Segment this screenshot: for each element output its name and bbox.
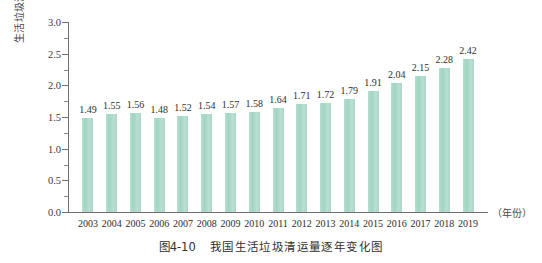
bar-value-label-2016: 2.04 (388, 69, 406, 80)
x-tick-label-2014: 2014 (339, 218, 359, 229)
y-tick-mark (64, 38, 68, 39)
bar-2019 (463, 59, 474, 212)
y-tick-label: 0.5 (48, 175, 61, 186)
y-tick-mark (64, 165, 68, 166)
bar-value-label-2014: 1.79 (341, 85, 359, 96)
x-tick-label-2019: 2019 (458, 218, 478, 229)
x-axis-unit-label: （年份） (492, 205, 532, 220)
x-tick-label-2016: 2016 (387, 218, 407, 229)
bar-value-label-2013: 1.72 (317, 89, 335, 100)
bar-2017 (415, 76, 426, 212)
bar-2003 (82, 118, 93, 212)
bar-2015 (368, 91, 379, 212)
bar-2016 (391, 83, 402, 212)
bar-value-label-2006: 1.48 (150, 104, 168, 115)
x-tick-label-2010: 2010 (244, 218, 264, 229)
x-tick-label-2013: 2013 (316, 218, 336, 229)
y-tick-mark (64, 70, 68, 71)
bar-2009 (225, 113, 236, 212)
x-tick-label-2005: 2005 (125, 218, 145, 229)
bar-2004 (106, 114, 117, 212)
figure-container: 生活垃圾清运量（亿吨） 0.00.51.01.52.02.53.0 1.491.… (0, 0, 542, 263)
figure-caption: 图4-10我国生活垃圾清运量逐年变化图 (0, 238, 542, 254)
x-tick-label-2008: 2008 (197, 218, 217, 229)
x-tick-label-2006: 2006 (149, 218, 169, 229)
x-tick-label-2015: 2015 (363, 218, 383, 229)
x-tick-label-2012: 2012 (292, 218, 312, 229)
x-tick-label-2009: 2009 (220, 218, 240, 229)
y-tick-mark (62, 180, 68, 181)
bar-value-label-2015: 1.91 (364, 77, 382, 88)
bar-2008 (201, 114, 212, 212)
bar-2010 (249, 112, 260, 212)
x-tick-label-2017: 2017 (411, 218, 431, 229)
x-axis-line (68, 212, 488, 213)
bar-value-label-2010: 1.58 (245, 98, 263, 109)
x-tick-label-2018: 2018 (434, 218, 454, 229)
y-tick-mark (62, 54, 68, 55)
bar-value-label-2018: 2.28 (436, 54, 454, 65)
bar-value-label-2009: 1.57 (222, 99, 240, 110)
y-axis-line (68, 22, 69, 213)
plot-area: 0.00.51.01.52.02.53.0 1.491.551.561.481.… (68, 22, 488, 213)
bar-2005 (130, 113, 141, 212)
bar-2013 (320, 103, 331, 212)
y-tick-mark (64, 133, 68, 134)
bar-2018 (439, 68, 450, 212)
y-tick-mark (62, 22, 68, 23)
x-tick-label-2011: 2011 (268, 218, 288, 229)
bar-2012 (296, 104, 307, 212)
y-tick-label: 2.0 (48, 80, 61, 91)
y-tick-mark (64, 101, 68, 102)
bar-2006 (154, 118, 165, 212)
bar-value-label-2005: 1.56 (127, 99, 145, 110)
bar-value-label-2019: 2.42 (459, 45, 477, 56)
caption-text: 我国生活垃圾清运量逐年变化图 (210, 240, 384, 254)
x-tick-label-2004: 2004 (102, 218, 122, 229)
y-tick-label: 0.0 (48, 207, 61, 218)
bar-value-label-2004: 1.55 (103, 100, 121, 111)
bar-value-label-2012: 1.71 (293, 90, 311, 101)
bar-value-label-2017: 2.15 (412, 62, 430, 73)
y-tick-label: 2.5 (48, 48, 61, 59)
bar-2011 (273, 108, 284, 212)
bar-value-label-2007: 1.52 (174, 102, 192, 113)
y-tick-mark (62, 117, 68, 118)
bar-value-label-2003: 1.49 (79, 104, 97, 115)
y-tick-mark (64, 196, 68, 197)
y-axis-title: 生活垃圾清运量（亿吨） (11, 0, 29, 64)
y-tick-label: 3.0 (48, 17, 61, 28)
x-tick-label-2007: 2007 (173, 218, 193, 229)
y-tick-mark (62, 85, 68, 86)
bar-value-label-2008: 1.54 (198, 100, 216, 111)
x-tick-label-2003: 2003 (78, 218, 98, 229)
y-tick-label: 1.5 (48, 112, 61, 123)
y-tick-label: 1.0 (48, 143, 61, 154)
caption-number: 图4-10 (159, 240, 196, 254)
y-tick-mark (62, 149, 68, 150)
bar-2007 (177, 116, 188, 212)
y-tick-mark (62, 212, 68, 213)
bar-value-label-2011: 1.64 (269, 94, 287, 105)
bar-2014 (344, 99, 355, 212)
